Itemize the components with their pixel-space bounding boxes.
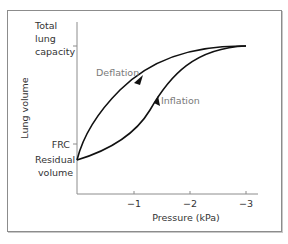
tlc-label-line-2: lung [35,33,56,44]
x-tick-label-2: −2 [183,198,197,209]
rv-label-line-2: volume [38,167,73,178]
x-tick-label-1: −1 [127,198,141,209]
inflation-label: Inflation [161,95,200,106]
tlc-label-line-3: capacity [35,46,75,57]
tlc-label-line-1: Total [34,20,57,31]
rv-label-line-1: Residual [35,154,75,165]
pressure-volume-diagram: Lung volume Total lung capacity FRC Resi… [0,0,288,244]
y-axis-title: Lung volume [19,77,30,139]
deflation-label: Deflation [96,67,139,78]
x-tick-label-3: −3 [239,198,253,209]
x-axis-title: Pressure (kPa) [152,212,220,223]
frc-label: FRC [52,139,71,150]
